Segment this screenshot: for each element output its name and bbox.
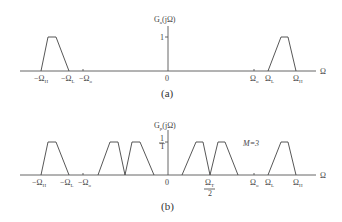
a-ytick-label: 1 bbox=[160, 33, 164, 42]
a-label-neg-omega-l: −ΩL bbox=[61, 74, 75, 84]
a-label-neg-omega-h: −ΩH bbox=[34, 74, 48, 84]
b-label-omega-t-half: ΩT bbox=[205, 178, 214, 188]
a-label-omega-h: ΩH bbox=[293, 74, 303, 84]
b-xaxis-label: Ω bbox=[320, 171, 326, 180]
b-spectrum-4 bbox=[182, 142, 210, 175]
a-label-zero: 0 bbox=[165, 74, 169, 83]
a-label-omega-o: Ωo bbox=[250, 74, 259, 84]
b-spectrum-2 bbox=[98, 142, 125, 175]
b-spectrum-3 bbox=[125, 142, 154, 175]
panel-b: Gp(jΩ) 1 T M=3 −ΩH −ΩL −Ωo 0 ΩT 2 Ωo ΩL … bbox=[20, 121, 326, 213]
b-label-neg-omega-o: −Ωo bbox=[78, 178, 91, 188]
b-label-omega-l: ΩL bbox=[265, 178, 274, 188]
a-ylabel: Ga(jΩ) bbox=[154, 15, 176, 25]
b-spectrum-1 bbox=[41, 142, 69, 175]
b-spectrum-5 bbox=[210, 142, 238, 175]
bandpass-sampling-diagram: Ga(jΩ) 1 −ΩH −ΩL −Ωo 0 Ωo ΩL ΩH Ω (a) Gp… bbox=[0, 0, 342, 222]
b-label-neg-omega-h: −ΩH bbox=[32, 178, 46, 188]
a-label-neg-omega-o: −Ωo bbox=[79, 74, 92, 84]
b-spectrum-6 bbox=[268, 142, 296, 175]
b-label-neg-omega-l: −ΩL bbox=[60, 178, 74, 188]
panel-a: Ga(jΩ) 1 −ΩH −ΩL −Ωo 0 Ωo ΩL ΩH Ω (a) bbox=[20, 15, 326, 100]
b-ylabel: Gp(jΩ) bbox=[154, 121, 176, 131]
b-ytick-den: T bbox=[160, 142, 165, 151]
a-caption: (a) bbox=[161, 87, 174, 100]
a-spectrum-positive bbox=[268, 37, 296, 71]
a-xaxis-label: Ω bbox=[320, 67, 326, 76]
b-caption: (b) bbox=[161, 200, 174, 213]
b-annotation-m: M=3 bbox=[242, 139, 259, 148]
b-label-zero: 0 bbox=[165, 178, 169, 187]
a-spectrum-negative bbox=[41, 37, 69, 71]
a-label-omega-l: ΩL bbox=[265, 74, 274, 84]
b-label-omega-h: ΩH bbox=[293, 178, 303, 188]
b-label-omega-t-half-den: 2 bbox=[208, 189, 212, 198]
b-label-omega-o: Ωo bbox=[250, 178, 259, 188]
